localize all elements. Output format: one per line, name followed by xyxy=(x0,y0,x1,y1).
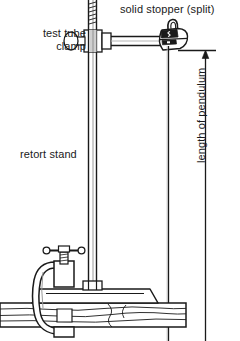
label-solid-stopper: solid stopper (split) xyxy=(120,3,214,16)
wooden-bench xyxy=(0,303,186,327)
retort-stand-base xyxy=(32,281,158,303)
label-length-of-pendulum: length of pendulum xyxy=(195,68,208,163)
label-retort-stand: retort stand xyxy=(20,148,77,161)
label-test-tube-clamp-line2: clamp xyxy=(8,40,86,53)
dimension-arrow-up-icon xyxy=(202,50,209,59)
label-test-tube-clamp-line1: test tube xyxy=(8,27,86,40)
pendulum-string xyxy=(167,46,168,341)
pendulum-diagram: test tube clamp solid stopper (split) re… xyxy=(0,0,240,341)
label-test-tube-clamp: test tube clamp xyxy=(8,27,86,54)
solid-stopper xyxy=(159,19,188,50)
